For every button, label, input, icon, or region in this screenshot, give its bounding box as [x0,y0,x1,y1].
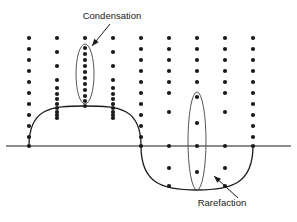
particle-dot-layer [27,36,255,188]
particle-dot [139,91,143,95]
particle-dot [27,113,31,117]
particle-dot [111,50,115,54]
particle-dot [83,58,87,62]
particle-dot [83,70,87,74]
particle-dot [139,47,143,51]
particle-dot [139,80,143,84]
particle-dot [27,80,31,84]
particle-dot [83,64,87,68]
particle-dot [251,47,255,51]
wave-curve [29,106,253,190]
particle-dot [55,36,59,40]
particle-dot [139,36,143,40]
particle-dot [83,46,87,50]
wave-diagram-figure: Condensation Rarefaction [0,0,297,222]
particle-dot [111,102,115,106]
particle-dot [55,116,59,120]
particle-dot [195,121,199,125]
particle-dot [27,69,31,73]
particle-dot [83,36,87,40]
particle-dot [55,78,59,82]
particle-dot [139,69,143,73]
particle-dot [167,80,171,84]
particle-dot [223,58,227,62]
particle-dot [167,91,171,95]
particle-dot [139,113,143,117]
particle-dot [139,102,143,106]
particle-dot [111,86,115,90]
particle-dot [83,82,87,86]
particle-dot [195,47,199,51]
particle-dot [223,91,227,95]
particle-dot [55,92,59,96]
particle-dot [83,76,87,80]
particle-dot [195,80,199,84]
particle-dot [167,69,171,73]
particle-dot [251,135,255,139]
particle-dot [251,69,255,73]
condensation-annotation: Condensation [83,10,142,46]
particle-dot [195,58,199,62]
particle-dot [27,58,31,62]
particle-dot [111,64,115,68]
particle-dot [167,36,171,40]
particle-dot [223,80,227,84]
particle-dot [251,124,255,128]
particle-dot [55,50,59,54]
condensation-label: Condensation [83,10,142,21]
particle-dot [83,99,87,103]
particle-dot [27,102,31,106]
particle-dot [139,124,143,128]
particle-dot [111,92,115,96]
particle-dot [223,36,227,40]
particle-dot [223,166,227,170]
particle-dot [83,88,87,92]
particle-dot [27,124,31,128]
particle-dot [139,58,143,62]
particle-dot [111,36,115,40]
particle-dot [111,97,115,101]
particle-dot [55,86,59,90]
particle-dot [195,95,199,99]
particle-dot [195,69,199,73]
particle-dot [27,91,31,95]
particle-dot [55,64,59,68]
particle-dot [27,47,31,51]
rarefaction-highlight-ellipse [188,92,206,190]
particle-dot [83,94,87,98]
particle-dot [251,36,255,40]
particle-dot [27,36,31,40]
particle-dot [111,116,115,120]
particle-dot [195,36,199,40]
particle-dot [167,58,171,62]
particle-dot [55,97,59,101]
particle-dot [223,69,227,73]
particle-dot [223,47,227,51]
particle-dot [251,91,255,95]
particle-dot [251,80,255,84]
particle-dot [167,166,171,170]
diagram-canvas: Condensation Rarefaction [0,0,297,222]
particle-dot [195,170,199,174]
particle-dot [167,110,171,114]
particle-dot [55,102,59,106]
particle-dot [167,47,171,51]
rarefaction-label: Rarefaction [198,197,247,208]
particle-dot [223,110,227,114]
particle-dot [83,52,87,56]
particle-dot [111,78,115,82]
particle-dot [251,58,255,62]
particle-dot [251,102,255,106]
particle-dot [251,113,255,117]
